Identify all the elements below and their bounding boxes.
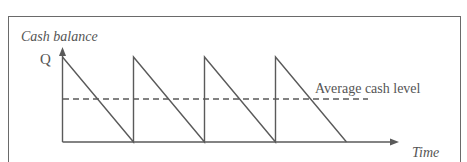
sawtooth-chart [0,0,467,162]
y-axis-arrow-icon [59,47,66,56]
x-axis-arrow-icon [390,139,399,146]
